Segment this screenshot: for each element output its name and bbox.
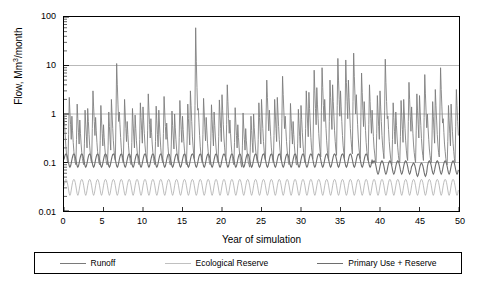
y-tick-label-0.1: 0.1 <box>28 158 56 168</box>
series-runoff <box>64 28 458 167</box>
x-tick-label-50: 50 <box>450 216 470 226</box>
series-ecological-reserve <box>64 179 458 195</box>
y-tick-label-1: 1 <box>28 109 56 119</box>
legend-label-primary-use-reserve: Primary Use + Reserve <box>348 258 436 268</box>
y-tick-label-0.01: 0.01 <box>28 207 56 217</box>
legend-label-ecological-reserve: Ecological Reserve <box>196 258 269 268</box>
y-axis-title-main: Flow, Mm <box>13 62 24 105</box>
y-tick-label-100: 100 <box>28 11 56 21</box>
x-tick-label-10: 10 <box>132 216 152 226</box>
legend-item-primary-use-reserve: Primary Use + Reserve <box>317 258 436 268</box>
x-tick-label-30: 30 <box>291 216 311 226</box>
chart-figure: Flow, Mm3/month 100 10 1 0.1 0.01 0 5 10… <box>0 0 500 290</box>
x-tick-label-0: 0 <box>53 216 73 226</box>
x-tick-label-5: 5 <box>92 216 112 226</box>
series-canvas <box>64 17 459 211</box>
chart-legend: Runoff Ecological Reserve Primary Use + … <box>34 252 462 274</box>
legend-item-ecological-reserve: Ecological Reserve <box>165 258 269 268</box>
x-axis-title: Year of simulation <box>63 234 460 245</box>
legend-item-runoff: Runoff <box>60 258 116 268</box>
plot-area <box>63 16 460 212</box>
legend-line-icon <box>60 263 86 264</box>
x-tick-label-25: 25 <box>251 216 271 226</box>
legend-line-icon <box>165 263 191 264</box>
y-tick-label-10: 10 <box>28 60 56 70</box>
x-tick-label-40: 40 <box>370 216 390 226</box>
x-tick-label-20: 20 <box>211 216 231 226</box>
y-axis-title-sup: 3 <box>12 58 19 62</box>
y-axis-title-rest: /month <box>13 28 24 59</box>
x-tick-label-15: 15 <box>172 216 192 226</box>
legend-label-runoff: Runoff <box>91 258 116 268</box>
y-axis-title: Flow, Mm3/month <box>12 0 24 136</box>
x-tick-label-45: 45 <box>410 216 430 226</box>
x-tick-label-35: 35 <box>330 216 350 226</box>
legend-line-icon <box>317 263 343 264</box>
